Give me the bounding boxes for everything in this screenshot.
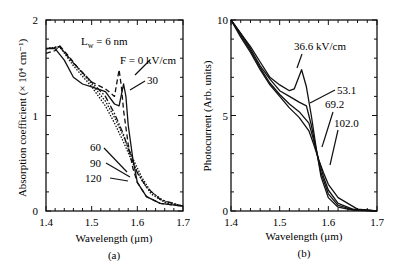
x-tick-label: 1.7 xyxy=(370,216,384,228)
y-tick-label: 2 xyxy=(33,14,39,26)
x-tick-label: 1.4 xyxy=(224,216,238,228)
curve-label-30: 30 xyxy=(147,74,159,86)
label-arrows-a xyxy=(104,60,150,181)
curve-label-102-0: 102.0 xyxy=(334,117,359,129)
y-tick-label: 0 xyxy=(33,205,39,217)
y-axis-title-b: Photocurrent (Arb. units) xyxy=(201,60,214,171)
y-tick-label: 5 xyxy=(223,110,229,122)
curve-label-f0: F = 0 kV/cm xyxy=(120,54,176,66)
x-tick-label: 1.6 xyxy=(321,216,335,228)
curve-label-60: 60 xyxy=(90,141,102,153)
curves-a xyxy=(46,46,183,206)
curve-label-36-6: 36.6 kV/cm xyxy=(294,40,346,52)
series-line xyxy=(46,47,183,207)
series-line xyxy=(46,49,183,207)
curve-label-53-1: 53.1 xyxy=(337,84,356,96)
curve-label-90: 90 xyxy=(90,157,102,169)
x-axis-title-a: Wavelength (μm) xyxy=(76,232,153,245)
panel-caption-a: (a) xyxy=(108,249,121,262)
y-tick-label: 1 xyxy=(33,110,39,122)
well-width-label: Lw = 6 nm xyxy=(81,35,128,50)
curve-label-120: 120 xyxy=(85,172,102,184)
y-axis-title-a: Absorption coefficient (× 10⁴ cm⁻¹) xyxy=(16,39,29,198)
x-tick-label: 1.4 xyxy=(39,216,53,228)
x-tick-label: 1.6 xyxy=(130,216,144,228)
series-line xyxy=(46,46,183,206)
y-tick-label: 10 xyxy=(217,14,229,26)
x-axis-title-b: Wavelength (μm) xyxy=(266,230,343,243)
panel-a-absorption: 2 1 0 1.4 1.5 1.6 1.7 Wavelength (μm) (a… xyxy=(16,14,190,262)
panel-b-photocurrent: 10 5 0 1.4 1.5 1.6 1.7 Wavelength (μm) (… xyxy=(201,14,384,260)
plot-frame-a xyxy=(46,20,183,211)
x-tick-label: 1.5 xyxy=(85,216,99,228)
x-tick-label: 1.7 xyxy=(176,216,190,228)
panel-caption-b: (b) xyxy=(298,247,311,260)
figure: 2 1 0 1.4 1.5 1.6 1.7 Wavelength (μm) (a… xyxy=(0,0,403,276)
x-tick-label: 1.5 xyxy=(273,216,287,228)
ticks-a xyxy=(46,20,183,211)
series-line xyxy=(46,47,183,207)
curve-label-69-2: 69.2 xyxy=(325,98,344,110)
series-line xyxy=(46,47,183,207)
